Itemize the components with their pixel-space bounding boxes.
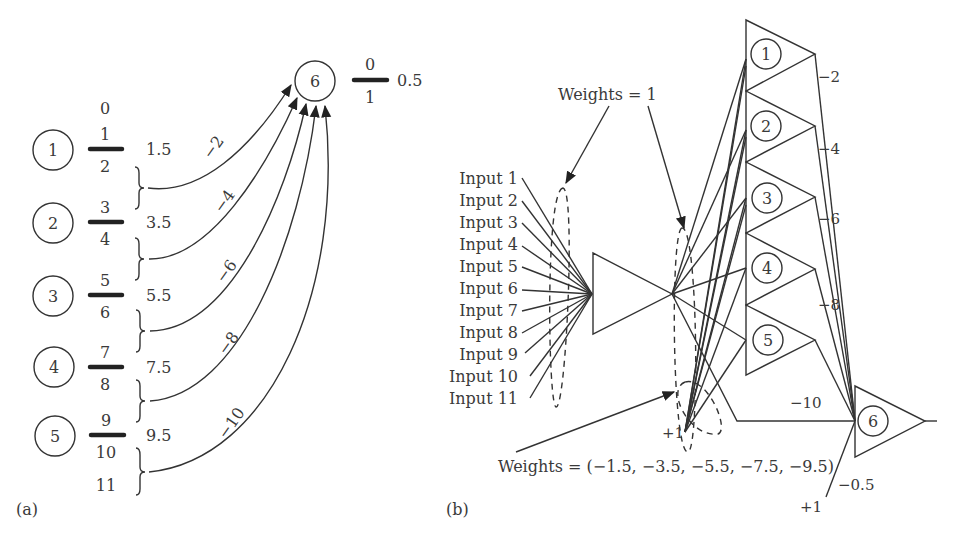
svg-text:Input 3: Input 3 (459, 213, 518, 232)
svg-text:4: 4 (762, 259, 772, 278)
output-neuron-6: 6 (855, 386, 937, 457)
threshold-2: 3.5 (146, 213, 171, 232)
svg-text:4: 4 (49, 358, 59, 377)
svg-text:2: 2 (48, 214, 58, 233)
hidden-triangle-0 (593, 253, 672, 334)
neuron-a-1: 1 (33, 130, 73, 170)
hidden-triangle-5 (746, 305, 815, 375)
svg-text:Input 1: Input 1 (459, 169, 518, 188)
svg-text:8: 8 (100, 375, 110, 394)
threshold-6: 0.5 (397, 71, 422, 90)
neuron-a-3: 3 (33, 276, 73, 316)
svg-text:3: 3 (762, 189, 772, 208)
bottom-value: 11 (96, 476, 116, 495)
weight-label-2: −4 (210, 186, 239, 216)
svg-text:1: 1 (100, 125, 110, 144)
threshold-4: 7.5 (146, 358, 171, 377)
weights-top-label: Weights = 1 (558, 85, 657, 104)
weight-label-3: −6 (212, 256, 241, 286)
svg-text:0: 0 (365, 55, 375, 74)
svg-text:Input 4: Input 4 (459, 235, 518, 254)
neuron-a-4: 4 (34, 347, 74, 387)
panel-b: Input 1 Input 2 Input 3 Input 4 Input 5 … (446, 20, 937, 519)
svg-text:10: 10 (96, 443, 116, 462)
dashed-ellipse-weights-1 (674, 228, 695, 452)
svg-text:Input 7: Input 7 (459, 301, 518, 320)
panel-label-a: (a) (16, 500, 38, 519)
threshold-5: 9.5 (146, 426, 171, 445)
svg-text:Input 5: Input 5 (459, 257, 518, 276)
dashed-ellipse-inputs (550, 188, 569, 407)
input-lines (522, 178, 592, 398)
svg-text:Input 6: Input 6 (459, 279, 518, 298)
hidden-triangle-3 (746, 162, 815, 233)
svg-text:7: 7 (100, 343, 110, 362)
weights-bottom-label: Weights = (−1.5, −3.5, −5.5, −7.5, −9.5) (498, 457, 834, 476)
hidden-weight-4: −8 (818, 296, 840, 314)
panel-label-b: (b) (446, 500, 469, 519)
svg-text:1: 1 (761, 45, 771, 64)
neuron-a-5: 5 (35, 416, 75, 456)
svg-text:3: 3 (48, 287, 58, 306)
hidden-triangle-4 (746, 233, 815, 305)
svg-text:Input 9: Input 9 (459, 345, 518, 364)
top-value: 0 (100, 99, 110, 118)
svg-text:6: 6 (100, 303, 110, 322)
threshold-1: 1.5 (146, 140, 171, 159)
hidden-weight-3: −6 (818, 210, 840, 228)
dashed-ellipse-bias (678, 382, 722, 435)
svg-text:5: 5 (100, 271, 110, 290)
neuron-a-6: 6 (295, 61, 335, 101)
hidden-weight-2: −4 (818, 140, 840, 158)
output-bias-label: +1 (800, 498, 822, 516)
diagram-canvas: 1 2 3 4 5 0 1 2 1.5 3 4 3.5 5 6 5.5 (0, 0, 963, 543)
weight-label-4: −8 (214, 328, 243, 358)
svg-text:9: 9 (101, 411, 111, 430)
svg-text:3: 3 (100, 198, 110, 217)
svg-text:5: 5 (763, 331, 773, 350)
input-labels: Input 1 Input 2 Input 3 Input 4 Input 5 … (449, 169, 518, 408)
svg-text:1: 1 (48, 141, 58, 160)
neuron-a-2: 2 (33, 203, 73, 243)
bias-label: +1 (662, 424, 684, 442)
brace-icons (135, 167, 145, 495)
hidden-weight-1: −2 (818, 68, 840, 86)
svg-text:Input 8: Input 8 (459, 323, 518, 342)
weight-label-1: −2 (199, 132, 228, 162)
svg-text:Input 11: Input 11 (449, 389, 518, 408)
svg-text:Input 2: Input 2 (459, 191, 518, 210)
svg-text:2: 2 (761, 117, 771, 136)
svg-text:Input 10: Input 10 (449, 367, 518, 386)
panel-a: 1 2 3 4 5 0 1 2 1.5 3 4 3.5 5 6 5.5 (16, 55, 422, 519)
svg-text:6: 6 (868, 412, 878, 431)
hidden-weight-5: −10 (790, 394, 822, 412)
svg-text:4: 4 (100, 230, 110, 249)
svg-text:1: 1 (365, 88, 375, 107)
svg-text:6: 6 (310, 72, 320, 91)
hidden-stack: 1 2 3 4 5 (746, 20, 815, 375)
threshold-3: 5.5 (146, 286, 171, 305)
svg-text:2: 2 (100, 157, 110, 176)
output-bias-weight: −0.5 (838, 476, 874, 494)
layer1-to-hidden-lines (672, 130, 746, 340)
svg-text:5: 5 (50, 427, 60, 446)
